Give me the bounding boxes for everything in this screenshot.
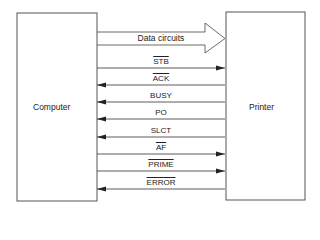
printer-label: Printer	[249, 102, 274, 112]
arrow-left-icon	[97, 83, 106, 88]
arrow-left-icon	[97, 100, 106, 105]
signal-label-slct: SLCT	[97, 126, 225, 135]
computer-label: Computer	[33, 102, 70, 112]
signal-label-af: AF	[97, 143, 225, 152]
signal-label-busy: BUSY	[97, 91, 225, 100]
signal-label-stb: STB	[97, 57, 225, 66]
signal-label-po: PO	[97, 108, 225, 117]
signal-label-ack: ACK	[97, 74, 225, 83]
arrow-right-icon	[216, 66, 225, 71]
bus-label: Data circuits	[97, 34, 225, 43]
arrow-right-icon	[216, 169, 225, 174]
arrow-left-icon	[97, 187, 106, 192]
arrow-right-icon	[216, 152, 225, 157]
arrow-left-icon	[97, 117, 106, 122]
arrow-left-icon	[97, 135, 106, 140]
signal-label-error: ERROR	[97, 178, 225, 187]
signal-label-prime: PRIME	[97, 160, 225, 169]
